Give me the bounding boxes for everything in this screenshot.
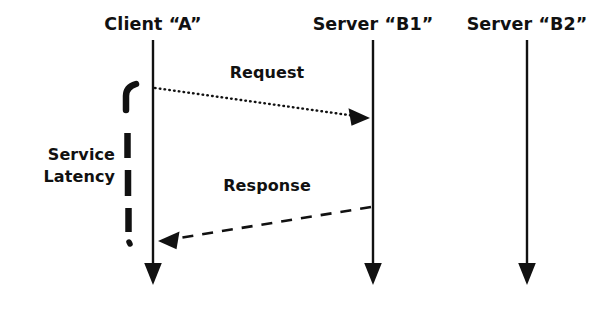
message-arrowhead-request (349, 108, 371, 126)
brace-top-hook (126, 84, 136, 110)
sequence-diagram: Client “A” Server “B1” Server “B2” Reque… (0, 0, 610, 311)
lifeline-arrowhead-client-a (144, 263, 162, 285)
brace-bottom-tick (129, 242, 130, 244)
lifeline-server-b1 (364, 40, 382, 285)
message-response: Response (158, 176, 371, 249)
lifeline-client-a (144, 40, 162, 285)
lifeline-arrowhead-server-b1 (364, 263, 382, 285)
participant-label-server-b2: Server “B2” (467, 14, 588, 34)
message-request: Request (155, 63, 370, 126)
message-label-request: Request (230, 63, 305, 82)
annotation-label-line1: Service (48, 145, 115, 164)
lifeline-server-b2 (518, 40, 536, 285)
lifeline-arrowhead-server-b2 (518, 263, 536, 285)
participant-label-server-b1: Server “B1” (313, 14, 434, 34)
message-label-response: Response (223, 176, 311, 195)
message-arrowhead-response (158, 232, 180, 250)
participant-label-client-a: Client “A” (104, 14, 201, 34)
diagram-canvas: Client “A” Server “B1” Server “B2” Reque… (0, 0, 610, 311)
annotation-label-line2: Latency (44, 167, 116, 186)
annotation-service-latency: Service Latency (44, 84, 137, 244)
message-line-response (176, 207, 371, 239)
message-line-request (155, 88, 352, 116)
